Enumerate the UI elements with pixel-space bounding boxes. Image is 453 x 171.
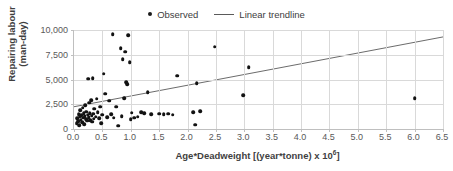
y-axis-tick	[71, 129, 74, 130]
y-axis-tick-label: 7,500	[45, 50, 68, 60]
x-axis-title: Age*Deadweight [(year*tonne) x 106]	[73, 150, 442, 161]
data-point	[95, 97, 99, 101]
chart-legend: Observed Linear trendline	[0, 5, 453, 23]
data-point	[413, 97, 417, 101]
y-axis-tick	[71, 55, 74, 56]
data-point	[91, 76, 95, 80]
data-point	[121, 57, 125, 61]
plot-area	[73, 30, 443, 130]
data-point	[130, 111, 134, 115]
x-axis-tick-label: 0.0	[67, 132, 80, 142]
x-axis-tick-label: 0.5	[95, 132, 108, 142]
gridline-horizontal	[74, 30, 443, 31]
data-point	[191, 110, 195, 114]
y-axis-title-line2: (man-day)	[17, 21, 28, 66]
data-point	[247, 65, 251, 69]
x-axis-tick-label: 1.0	[124, 132, 137, 142]
data-point	[89, 98, 93, 102]
y-axis-tick	[71, 30, 74, 31]
data-point	[213, 45, 217, 49]
y-axis-tick-label: 10,000	[40, 25, 68, 35]
x-axis-tick-label: 6.0	[407, 132, 420, 142]
x-axis-title-tail: ]	[336, 150, 339, 161]
data-point	[146, 91, 150, 95]
data-point	[112, 116, 116, 120]
observed-marker-icon	[148, 12, 152, 16]
gridline-horizontal	[74, 55, 443, 56]
x-axis-title-main: Age*Deadweight [(year*tonne) x 10	[175, 150, 332, 161]
data-point	[122, 97, 126, 101]
data-point	[195, 82, 199, 86]
data-point	[82, 122, 86, 126]
data-point	[105, 115, 109, 119]
data-point	[194, 123, 198, 127]
scatter-chart: Observed Linear trendline Repairing labo…	[0, 0, 453, 171]
data-point	[143, 111, 147, 115]
x-axis-tick-label: 5.5	[379, 132, 392, 142]
x-axis-tick-label: 3.0	[237, 132, 250, 142]
data-point	[97, 116, 101, 120]
x-axis-tick-label: 2.5	[209, 132, 222, 142]
y-axis-title: Repairing labour (man-day)	[6, 0, 28, 94]
x-axis-tick-label: 4.5	[322, 132, 335, 142]
gridline-horizontal	[74, 80, 443, 81]
legend-item-observed: Observed	[148, 9, 198, 20]
y-axis-tick	[71, 104, 74, 105]
data-point	[171, 113, 175, 117]
data-point	[198, 109, 202, 113]
data-point	[149, 112, 153, 116]
data-point	[96, 110, 100, 114]
data-point	[98, 105, 102, 109]
data-point	[107, 99, 111, 103]
legend-item-trendline: Linear trendline	[214, 9, 305, 20]
data-point	[123, 50, 127, 54]
data-point	[166, 112, 170, 116]
gridline-horizontal	[74, 104, 443, 105]
legend-label-observed: Observed	[157, 9, 198, 20]
data-point	[102, 72, 106, 76]
x-axis-tick-label: 5.0	[351, 132, 364, 142]
data-point	[103, 92, 107, 96]
trendline-marker-icon	[214, 14, 234, 15]
gridline-vertical	[443, 30, 444, 129]
data-point	[241, 94, 245, 98]
data-point	[126, 82, 130, 86]
y-axis-tick	[71, 80, 74, 81]
x-axis-tick-label: 6.5	[436, 132, 449, 142]
data-point	[116, 124, 120, 128]
x-axis-tick-label: 1.5	[152, 132, 165, 142]
data-point	[119, 47, 123, 51]
data-point	[128, 60, 132, 64]
y-axis-tick-label: 0	[63, 124, 68, 134]
data-point	[157, 112, 161, 116]
data-point	[84, 103, 88, 107]
data-point	[176, 74, 180, 78]
data-point	[120, 114, 124, 118]
data-point	[114, 105, 118, 109]
data-point	[136, 115, 140, 119]
y-axis-tick-label: 5,000	[45, 75, 68, 85]
y-axis-title-line1: Repairing labour	[6, 6, 17, 81]
x-axis-tick-label: 4.0	[294, 132, 307, 142]
data-point	[127, 33, 131, 37]
data-point	[162, 112, 166, 116]
data-point	[99, 121, 103, 125]
x-axis-tick-label: 2.0	[180, 132, 193, 142]
y-axis-tick-label: 2,500	[45, 99, 68, 109]
data-point	[111, 33, 115, 37]
data-point	[101, 113, 105, 117]
x-axis-tick-label: 3.5	[265, 132, 278, 142]
data-point	[86, 77, 90, 81]
legend-label-trendline: Linear trendline	[239, 9, 305, 20]
